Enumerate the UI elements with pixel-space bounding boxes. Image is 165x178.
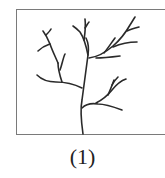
figure-caption: (1): [0, 144, 165, 170]
